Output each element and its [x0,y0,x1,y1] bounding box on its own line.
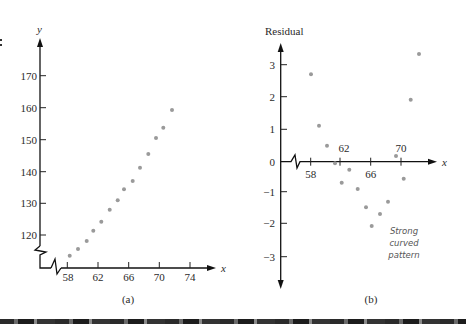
x-tick-label: 58 [63,271,75,283]
y-tick-label: −2 [263,217,275,229]
x-axis [281,155,430,168]
y-ticks: 3 2 1 0 −1 −2 −3 [263,59,287,263]
margin-mark [0,39,2,41]
x-tick-label: 58 [305,168,317,180]
panel-b-label: (b) [365,293,378,306]
y-tick-label: 2 [270,91,276,103]
x-tick-label: 62 [93,271,104,283]
annotation-strong-curved-pattern: Strong curved pattern [387,226,419,260]
svg-text:Strong: Strong [390,226,419,236]
panel-a-label: (a) [122,293,135,306]
x-tick-label: 66 [123,271,135,283]
y-tick-label: 120 [21,229,38,241]
x-axis-break [51,259,61,274]
y-axis-arrow-down-icon [278,280,284,289]
panel-a-scatter: y x 170 160 150 140 130 120 58 62 66 [21,23,227,306]
x-ticks: 58 66 62 70 [305,142,407,180]
y-tick-label: 1 [270,123,276,135]
y-tick-label: 3 [270,59,276,71]
y-tick-label: −3 [263,251,275,263]
x-tick-label: 66 [365,168,377,180]
y-axis-arrow-icon [37,38,43,47]
x-axis-arrow-icon [207,265,216,271]
x-tick-label: 74 [185,271,197,283]
y-tick-label: 140 [21,166,38,178]
y-tick-label: 160 [21,102,38,114]
x-tick-label: 70 [154,271,166,283]
y-tick-label: 150 [21,134,38,146]
x-ticks: 58 62 66 70 74 [63,262,197,283]
y-ticks: 170 160 150 140 130 120 [21,70,47,242]
data-points [309,52,421,228]
y-tick-label: 170 [21,70,38,82]
x-axis-arrow-icon [428,159,437,165]
x-tick-label: 70 [396,142,408,154]
y-tick-label: 130 [21,197,38,209]
x-axis-label: x [220,262,226,274]
x-axis-label: x [441,156,447,168]
x-tick-label: 62 [339,142,350,154]
scan-edge-band [0,319,466,324]
y-tick-label: 0 [270,156,276,168]
y-axis-label: y [36,23,42,35]
y-axis-break [35,246,51,268]
y-axis-arrow-up-icon [278,43,284,52]
y-axis-title: Residual [265,25,304,37]
svg-text:pattern: pattern [387,250,419,260]
svg-text:curved: curved [389,238,419,248]
margin-mark [0,44,2,46]
panel-b-residual-plot: Residual x 3 2 1 0 −1 −2 −3 58 [263,25,447,306]
y-tick-label: −1 [263,186,275,198]
figure: y x 170 160 150 140 130 120 58 62 66 [0,0,466,324]
data-points [68,108,174,258]
